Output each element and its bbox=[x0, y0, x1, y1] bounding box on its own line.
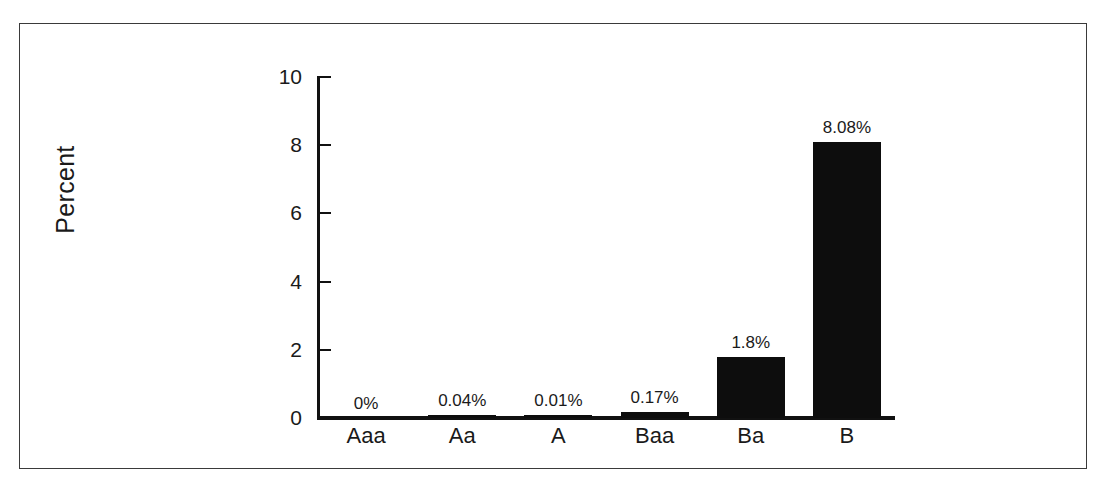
y-tick-label-10: 10 bbox=[262, 66, 302, 87]
bar-A bbox=[524, 415, 592, 418]
y-tick-2 bbox=[320, 349, 331, 351]
y-tick-4 bbox=[320, 281, 331, 283]
y-tick-label-8: 8 bbox=[262, 134, 302, 155]
bar-Baa bbox=[621, 412, 689, 418]
bar-B bbox=[813, 142, 881, 418]
bar-value-label-Baa: 0.17% bbox=[595, 389, 715, 406]
x-category-label-B: B bbox=[787, 425, 907, 447]
x-axis-line bbox=[317, 416, 895, 420]
bar-chart: Percent 0246810 0%0.04%0.01%0.17%1.8%8.0… bbox=[0, 0, 1108, 489]
bar-value-label-B: 8.08% bbox=[787, 119, 907, 136]
y-tick-label-6: 6 bbox=[262, 202, 302, 223]
y-tick-8 bbox=[320, 144, 331, 146]
y-tick-6 bbox=[320, 212, 331, 214]
bar-Aa bbox=[428, 415, 496, 418]
y-axis-line bbox=[317, 76, 320, 420]
y-tick-label-0: 0 bbox=[262, 407, 302, 428]
bar-Ba bbox=[717, 357, 785, 418]
y-tick-label-4: 4 bbox=[262, 271, 302, 292]
y-tick-0 bbox=[320, 417, 331, 419]
y-tick-label-2: 2 bbox=[262, 339, 302, 360]
bar-value-label-Ba: 1.8% bbox=[691, 334, 811, 351]
y-axis-title: Percent bbox=[51, 90, 80, 290]
y-tick-10 bbox=[320, 76, 331, 78]
